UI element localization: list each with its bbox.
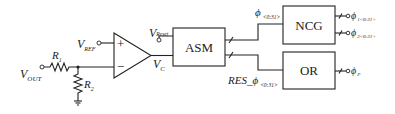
ground-icon bbox=[74, 101, 82, 105]
circuit-diagram: VOUT R1 R2 VREF + − VC VReset A bbox=[0, 0, 395, 114]
phi2-terminal bbox=[346, 31, 350, 35]
phi2-label: ϕ2<0:31> bbox=[351, 27, 376, 39]
ncg-block: NCG bbox=[283, 6, 335, 44]
phip-label: ϕP bbox=[351, 65, 360, 77]
plus-sign: + bbox=[117, 36, 124, 51]
vref-terminal bbox=[97, 41, 101, 45]
phi-bus-label: ϕ<0:31> bbox=[255, 6, 280, 20]
vout-input: VOUT bbox=[20, 65, 44, 83]
vref-label: VREF bbox=[77, 37, 96, 52]
r2-label: R2 bbox=[83, 78, 94, 92]
or-block: OR bbox=[283, 52, 335, 89]
asm-block: ASM bbox=[173, 28, 225, 66]
ncg-label: NCG bbox=[295, 18, 322, 33]
vreset-terminal bbox=[157, 38, 161, 42]
vout-terminal bbox=[40, 65, 44, 69]
phi-bus-wire bbox=[225, 24, 283, 40]
res-phi-bus-wire bbox=[225, 55, 283, 70]
comparator: + − bbox=[114, 33, 151, 78]
vc-label: VC bbox=[153, 57, 165, 73]
r1-label: R1 bbox=[51, 49, 62, 63]
phip-output: ϕP bbox=[335, 65, 360, 77]
resistor-r1: R1 bbox=[44, 49, 78, 71]
or-label: OR bbox=[300, 63, 318, 78]
phi2-output: ϕ2<0:31> bbox=[335, 27, 376, 39]
vreset-input: VReset bbox=[149, 26, 173, 42]
asm-label: ASM bbox=[185, 40, 214, 55]
phi1-output: ϕ1<0:31> bbox=[335, 10, 376, 22]
phi1-label: ϕ1<0:31> bbox=[351, 10, 376, 22]
minus-sign: − bbox=[117, 59, 124, 74]
vout-label: VOUT bbox=[20, 67, 42, 83]
vref-input: VREF bbox=[77, 37, 114, 52]
res-phi-bus-label: RES_ϕ<0:31> bbox=[227, 74, 278, 88]
resistor-r2: R2 bbox=[74, 67, 94, 101]
phi1-terminal bbox=[346, 14, 350, 18]
phip-terminal bbox=[346, 69, 350, 73]
